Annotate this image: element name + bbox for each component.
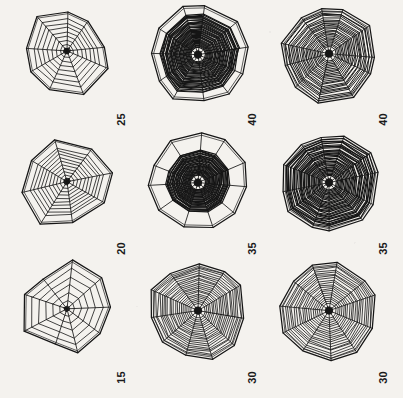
panel-r2c3	[272, 130, 386, 242]
spider-web-drawing	[140, 258, 256, 370]
panel-label-r2c2: 35	[247, 242, 258, 254]
panel-label-r2c3: 35	[378, 242, 389, 254]
panel-label-r3c1: 15	[116, 371, 127, 383]
panel-r1c1	[8, 2, 126, 106]
panel-r2c1	[8, 130, 126, 240]
panel-label-r3c2: 30	[247, 371, 258, 383]
panel-r1c2	[140, 2, 256, 114]
panel-label-r1c3: 40	[378, 113, 389, 125]
spider-web-drawing	[8, 2, 126, 106]
spider-web-drawing	[140, 2, 256, 114]
panel-r3c1	[8, 258, 126, 366]
spider-web-drawing	[272, 2, 386, 112]
panel-r3c2	[140, 258, 256, 370]
spider-web-drawing	[272, 258, 386, 370]
panel-label-r2c1: 20	[116, 242, 127, 254]
spider-web-drawing	[8, 130, 126, 240]
spider-web-drawing	[140, 130, 256, 242]
panel-label-r1c2: 40	[247, 113, 258, 125]
panel-label-r3c3: 30	[378, 371, 389, 383]
spider-web-drawing	[8, 258, 126, 366]
panel-r3c3	[272, 258, 386, 370]
figure-sheet: 25 40 40 20 35 35 15 30 30	[0, 0, 403, 398]
panel-label-r1c1: 25	[116, 113, 127, 125]
panel-r1c3	[272, 2, 386, 112]
panel-r2c2	[140, 130, 256, 242]
spider-web-drawing	[272, 130, 386, 242]
